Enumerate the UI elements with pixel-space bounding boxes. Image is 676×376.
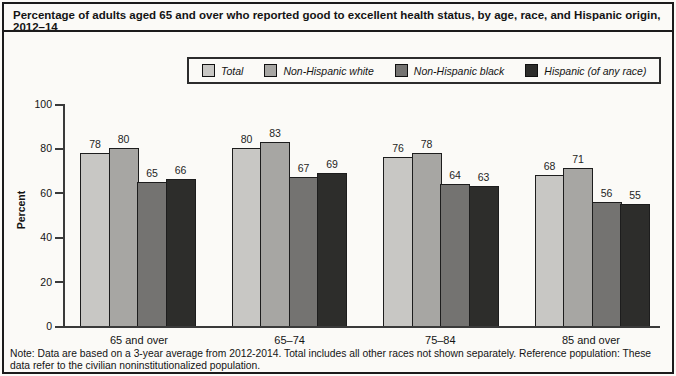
legend-item: Non-Hispanic black [395, 64, 504, 77]
bar: 64 [440, 184, 470, 326]
legend-swatch-icon [395, 64, 408, 77]
legend-label: Hispanic (of any race) [544, 65, 646, 77]
y-tick-label: 100 [24, 98, 52, 110]
y-tick [55, 148, 64, 150]
category-labels: 65 and over65–7475–8485 and over [72, 334, 658, 346]
bar-group: 68715655 [535, 104, 651, 326]
bar-group: 76786463 [383, 104, 499, 326]
y-tick-label: 40 [24, 231, 52, 243]
bar: 55 [620, 204, 650, 326]
legend: TotalNon-Hispanic whiteNon-Hispanic blac… [187, 57, 661, 84]
bar: 69 [317, 173, 347, 326]
legend-item: Hispanic (of any race) [525, 64, 646, 77]
x-category-label: 85 and over [532, 334, 650, 346]
y-axis-line [63, 104, 65, 327]
bar: 65 [137, 182, 167, 326]
legend-swatch-icon [202, 64, 215, 77]
bar: 67 [289, 177, 319, 326]
x-category-label: 65 and over [80, 334, 198, 346]
bar-value-label: 66 [159, 164, 203, 176]
bar: 68 [535, 175, 565, 326]
bar-value-label: 63 [462, 171, 506, 183]
legend-swatch-icon [264, 64, 277, 77]
bar-value-label: 69 [310, 158, 354, 170]
legend-item: Total [202, 64, 243, 77]
x-category-label: 75–84 [381, 334, 499, 346]
bar: 80 [232, 148, 262, 326]
x-category-label: 65–74 [231, 334, 349, 346]
footnote: Note: Data are based on a 3-year average… [10, 348, 666, 372]
bar: 78 [80, 153, 110, 326]
bar-group: 80836769 [232, 104, 348, 326]
legend-swatch-icon [525, 64, 538, 77]
x-axis-line [63, 326, 660, 328]
bar-value-label: 71 [556, 153, 600, 165]
bar: 76 [383, 157, 413, 326]
y-tick [55, 237, 64, 239]
y-tick [55, 104, 64, 106]
legend-label: Non-Hispanic white [283, 65, 373, 77]
y-tick [55, 326, 64, 328]
y-tick [55, 192, 64, 194]
legend-label: Total [221, 65, 243, 77]
title-divider [2, 30, 674, 32]
bar: 63 [469, 186, 499, 326]
bar: 56 [592, 202, 622, 326]
y-tick [55, 281, 64, 283]
legend-label: Non-Hispanic black [414, 65, 504, 77]
bar: 66 [166, 179, 196, 326]
bar-groups: 78806566808367697678646368715655 [72, 104, 658, 326]
y-tick-label: 60 [24, 187, 52, 199]
bar-group: 78806566 [80, 104, 196, 326]
bar-value-label: 83 [253, 127, 297, 139]
y-tick-label: 20 [24, 276, 52, 288]
y-tick-label: 80 [24, 142, 52, 154]
bar-value-label: 55 [613, 189, 657, 201]
y-tick-label: 0 [24, 320, 52, 332]
legend-item: Non-Hispanic white [264, 64, 373, 77]
chart-area: Percent 020406080100 7880656680836769767… [0, 96, 676, 352]
bar-value-label: 78 [405, 138, 449, 150]
bar-value-label: 80 [102, 133, 146, 145]
figure: Percentage of adults aged 65 and over wh… [0, 0, 676, 376]
